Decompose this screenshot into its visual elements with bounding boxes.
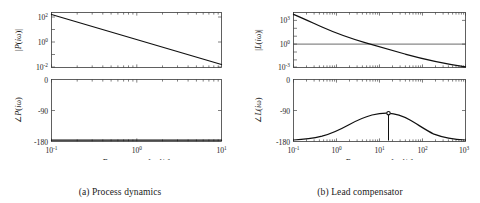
phase-subplot-b: 0 -90 -180 ∠L(iω) 10-1 100 101 102 103 F… [254, 76, 469, 161]
svg-text:100: 100 [280, 39, 291, 50]
x-axis-label-b: Frequency ω [rad/s] [346, 158, 414, 160]
caption-panel-a: (a) Process dynamics [0, 187, 240, 197]
phase-margin-marker-b [387, 112, 390, 115]
phase-axis-label-b: ∠L(iω) [254, 97, 263, 122]
magnitude-axis-label-b: |L(iω)| [254, 29, 263, 51]
magnitude-y-tick-labels-a: 102 100 10-2 [36, 12, 48, 73]
svg-text:100: 100 [331, 145, 342, 156]
magnitude-y-tick-labels-b: 103 100 10-3 [278, 15, 290, 72]
panel-b-plots: 103 100 10-3 |L(iω)| [240, 0, 480, 160]
svg-text:0: 0 [44, 76, 48, 85]
x-tick-labels-b: 10-1 100 101 102 103 [287, 145, 469, 156]
phase-x-ticks-b [294, 80, 466, 142]
magnitude-axis-label-a: |P(iω)| [14, 29, 23, 51]
svg-text:100: 100 [132, 145, 143, 156]
svg-text:10-1: 10-1 [45, 145, 57, 156]
svg-text:10-2: 10-2 [36, 62, 48, 73]
phase-axis-label-a: ∠P(iω) [14, 97, 23, 123]
x-tick-labels-a: 10-1 100 101 [45, 145, 226, 156]
svg-text:-90: -90 [38, 107, 48, 116]
magnitude-curve-a [52, 15, 222, 65]
phase-y-tick-labels-b: 0 -90 -180 [276, 76, 290, 147]
phase-subplot-a: 0 -90 -180 ∠P(iω) 10-1 100 101 Frequency… [14, 76, 227, 161]
svg-text:10-3: 10-3 [278, 62, 290, 73]
svg-text:-90: -90 [280, 107, 290, 116]
svg-text:101: 101 [216, 145, 227, 156]
magnitude-x-ticks-a [52, 13, 219, 68]
svg-text:101: 101 [374, 145, 385, 156]
magnitude-curve-b [294, 14, 466, 67]
caption-panel-b: (b) Lead compensator [240, 187, 480, 197]
panel-a-plots: 102 100 10-2 |P(iω)| [0, 0, 240, 160]
svg-text:102: 102 [417, 145, 428, 156]
panel-process-dynamics: 102 100 10-2 |P(iω)| [0, 0, 240, 203]
svg-text:102: 102 [38, 12, 49, 23]
x-axis-label-a: Frequency ω [rad/s] [103, 158, 171, 160]
svg-text:103: 103 [459, 145, 470, 156]
svg-text:10-1: 10-1 [287, 145, 299, 156]
magnitude-x-ticks-b [294, 13, 466, 68]
magnitude-y-ticks-b [294, 20, 466, 67]
magnitude-subplot-a: 102 100 10-2 |P(iω)| [14, 12, 222, 73]
bode-plot-figure: 102 100 10-2 |P(iω)| [0, 0, 480, 203]
phase-curve-b [294, 113, 466, 140]
magnitude-y-ticks-a [52, 17, 222, 67]
svg-text:103: 103 [280, 15, 291, 26]
svg-text:0: 0 [286, 76, 290, 85]
phase-y-tick-labels-a: 0 -90 -180 [34, 76, 48, 147]
panel-lead-compensator: 103 100 10-3 |L(iω)| [240, 0, 480, 203]
phase-x-ticks-a [52, 80, 219, 142]
svg-text:100: 100 [38, 37, 49, 48]
magnitude-subplot-b: 103 100 10-3 |L(iω)| [254, 13, 466, 73]
